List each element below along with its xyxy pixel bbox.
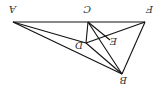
label-f: F bbox=[145, 4, 154, 15]
segment-ce bbox=[88, 22, 110, 40]
segment-cd bbox=[86, 22, 88, 43]
label-a: A bbox=[9, 4, 17, 15]
label-d: D bbox=[75, 40, 84, 51]
segment-fb bbox=[122, 22, 145, 74]
point-labels: A C F D E B bbox=[9, 4, 154, 86]
geometry-diagram: A C F D E B bbox=[0, 0, 157, 98]
label-b: B bbox=[120, 75, 128, 86]
label-c: C bbox=[83, 4, 91, 15]
label-e: E bbox=[109, 36, 118, 47]
